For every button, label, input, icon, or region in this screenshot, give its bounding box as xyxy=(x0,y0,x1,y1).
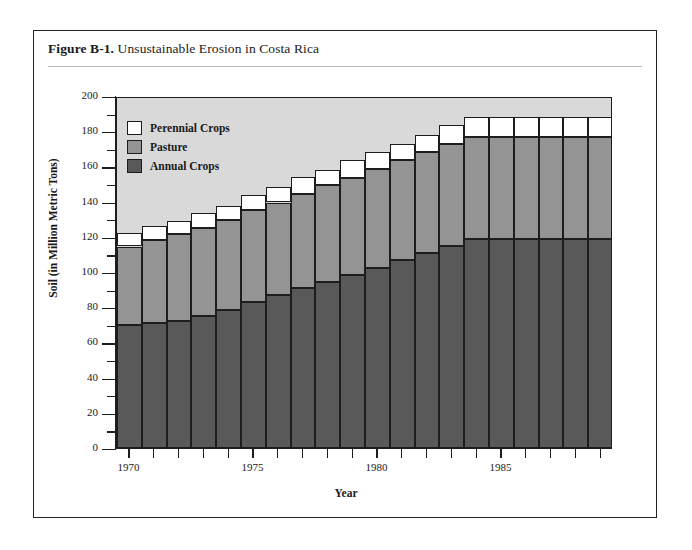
x-tick-1983 xyxy=(451,449,452,458)
segment-annual-crops-1977 xyxy=(291,288,316,448)
x-tick-1977 xyxy=(302,449,303,458)
y-tick-120 xyxy=(102,238,115,239)
segment-annual-crops-1987 xyxy=(539,239,564,448)
segment-pasture-1983 xyxy=(439,144,464,246)
x-tick-1971 xyxy=(153,449,154,458)
segment-pasture-1974 xyxy=(216,220,241,310)
segment-pasture-1977 xyxy=(291,194,316,288)
y-tick-label-120: 120 xyxy=(82,230,99,242)
segment-perennial-crops-1986 xyxy=(514,117,539,137)
y-tick-170 xyxy=(107,150,115,151)
segment-annual-crops-1980 xyxy=(365,268,390,448)
bar-1972 xyxy=(167,221,192,448)
chart-legend: Perennial CropsPastureAnnual Crops xyxy=(127,118,230,175)
y-tick-150 xyxy=(107,185,115,186)
figure-page: Figure B-1. Unsustainable Erosion in Cos… xyxy=(0,0,692,550)
segment-pasture-1973 xyxy=(191,228,216,316)
x-tick-1982 xyxy=(426,449,427,458)
segment-annual-crops-1986 xyxy=(514,239,539,448)
segment-pasture-1979 xyxy=(340,178,365,275)
segment-perennial-crops-1972 xyxy=(167,221,192,234)
segment-annual-crops-1974 xyxy=(216,310,241,448)
y-tick-30 xyxy=(107,396,115,397)
y-tick-180 xyxy=(102,132,115,133)
legend-label-perennial-crops: Perennial Crops xyxy=(150,122,230,134)
x-tick-1989 xyxy=(600,449,601,458)
legend-swatch-annual-crops xyxy=(127,159,142,173)
segment-annual-crops-1981 xyxy=(390,260,415,448)
bar-1988 xyxy=(563,117,588,448)
bar-1978 xyxy=(315,170,340,448)
y-tick-160 xyxy=(102,167,115,168)
segment-pasture-1978 xyxy=(315,185,340,282)
segment-perennial-crops-1973 xyxy=(191,213,216,228)
bar-1980 xyxy=(365,152,390,448)
segment-perennial-crops-1974 xyxy=(216,206,241,220)
segment-pasture-1975 xyxy=(241,210,266,302)
segment-perennial-crops-1977 xyxy=(291,177,316,194)
y-tick-20 xyxy=(102,414,115,415)
bar-1974 xyxy=(216,206,241,448)
y-tick-0 xyxy=(102,449,115,450)
segment-perennial-crops-1976 xyxy=(266,187,291,203)
x-tick-1981 xyxy=(401,449,402,458)
y-tick-label-20: 20 xyxy=(87,406,98,418)
x-tick-1986 xyxy=(525,449,526,458)
legend-label-annual-crops: Annual Crops xyxy=(150,160,219,172)
segment-perennial-crops-1987 xyxy=(539,117,564,137)
y-tick-10 xyxy=(107,431,115,432)
segment-annual-crops-1976 xyxy=(266,295,291,448)
segment-annual-crops-1983 xyxy=(439,246,464,448)
x-tick-1973 xyxy=(203,449,204,458)
y-tick-label-40: 40 xyxy=(87,371,98,383)
segment-annual-crops-1970 xyxy=(117,325,142,448)
segment-annual-crops-1979 xyxy=(340,275,365,448)
x-tick-label-1985: 1985 xyxy=(489,461,511,473)
legend-swatch-pasture xyxy=(127,140,142,154)
bar-1985 xyxy=(489,117,514,448)
bar-1977 xyxy=(291,177,316,448)
bar-1983 xyxy=(439,125,464,448)
bar-1979 xyxy=(340,160,365,448)
y-tick-90 xyxy=(107,291,115,292)
x-tick-1974 xyxy=(228,449,229,458)
segment-pasture-1981 xyxy=(390,160,415,259)
bar-1982 xyxy=(415,135,440,448)
segment-pasture-1988 xyxy=(563,137,588,238)
y-tick-50 xyxy=(107,361,115,362)
segment-pasture-1985 xyxy=(489,137,514,238)
y-tick-label-140: 140 xyxy=(82,195,99,207)
y-tick-110 xyxy=(107,255,115,256)
x-tick-1988 xyxy=(575,449,576,458)
segment-pasture-1989 xyxy=(588,137,612,238)
segment-pasture-1970 xyxy=(117,247,142,325)
x-tick-1980 xyxy=(376,449,377,458)
bar-1984 xyxy=(464,117,489,448)
segment-perennial-crops-1978 xyxy=(315,170,340,185)
x-tick-1975 xyxy=(252,449,253,458)
segment-annual-crops-1984 xyxy=(464,239,489,448)
segment-pasture-1984 xyxy=(464,137,489,238)
x-tick-1970 xyxy=(128,449,129,458)
bar-1971 xyxy=(142,226,167,448)
segment-pasture-1982 xyxy=(415,152,440,252)
segment-perennial-crops-1981 xyxy=(390,144,415,161)
segment-pasture-1986 xyxy=(514,137,539,238)
segment-pasture-1972 xyxy=(167,234,192,321)
x-axis-line xyxy=(115,448,612,449)
segment-annual-crops-1973 xyxy=(191,316,216,448)
segment-perennial-crops-1989 xyxy=(588,117,612,137)
bar-1975 xyxy=(241,195,266,448)
segment-pasture-1976 xyxy=(266,203,291,295)
legend-label-pasture: Pasture xyxy=(150,141,187,153)
x-tick-1979 xyxy=(352,449,353,458)
segment-annual-crops-1972 xyxy=(167,321,192,448)
segment-annual-crops-1975 xyxy=(241,302,266,448)
y-tick-130 xyxy=(107,220,115,221)
bar-1976 xyxy=(266,187,291,448)
segment-perennial-crops-1970 xyxy=(117,233,142,246)
bar-1970 xyxy=(117,233,142,448)
bar-1986 xyxy=(514,117,539,448)
y-tick-label-180: 180 xyxy=(82,124,99,136)
segment-perennial-crops-1980 xyxy=(365,152,390,169)
